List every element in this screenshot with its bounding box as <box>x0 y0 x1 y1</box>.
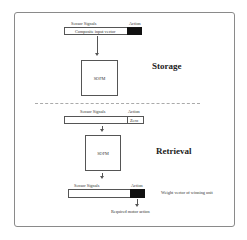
retrieval-action-label: Action <box>128 109 140 114</box>
retrieval-action-zero: Zero <box>127 117 143 123</box>
retrieval-sofm-label: SOFM <box>86 151 120 156</box>
retrieval-output-arrow-icon <box>100 176 104 179</box>
motor-action-arrow-icon <box>135 204 139 207</box>
storage-action-block <box>127 27 142 35</box>
retrieval-sensor-signals-label: Sensor Signals <box>80 109 105 114</box>
retrieval-input-arrow-icon <box>100 129 104 132</box>
storage-sofm-box: SOFM <box>81 60 118 96</box>
storage-arrow-icon <box>95 53 99 56</box>
retrieval-output-sensor-signals-label: Sensor Signals <box>74 183 99 188</box>
required-motor-action-label: Required motor action <box>111 209 150 214</box>
storage-title: Storage <box>152 61 182 71</box>
retrieval-sofm-box: SOFM <box>85 135 121 171</box>
storage-action-label: Action <box>129 21 141 26</box>
section-separator <box>35 103 200 104</box>
storage-sensor-signals-label: Sensor Signals <box>71 21 96 26</box>
composite-input-vector-text: Composite input vector <box>75 29 115 34</box>
retrieval-output-action-block <box>130 189 145 198</box>
storage-sofm-label: SOFM <box>82 76 117 81</box>
retrieval-input-vector: Zero <box>64 116 144 124</box>
winning-unit-annotation: Weight vector of winning unit <box>161 190 213 195</box>
retrieval-title: Retrieval <box>156 146 191 156</box>
storage-arrow-line <box>97 36 98 54</box>
retrieval-output-action-label: Action <box>131 183 143 188</box>
